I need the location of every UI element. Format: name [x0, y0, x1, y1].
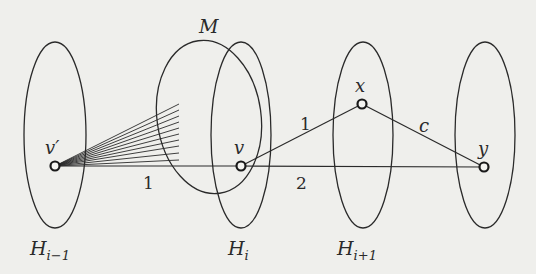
set-label-m: M [198, 15, 219, 37]
vertex-y [480, 163, 489, 172]
edge-label-v-x: 1 [300, 114, 311, 134]
set-h-i-plus-1 [333, 42, 393, 228]
edge-label-v-y: 2 [296, 173, 307, 193]
set-m [147, 34, 271, 201]
set-h-i-plus-2 [455, 42, 515, 228]
set-h-i [211, 42, 271, 228]
edge-label-vprime-v: 1 [143, 173, 154, 193]
vertex-v-prime [51, 162, 60, 171]
vertex-label-v-prime: v′ [45, 137, 59, 158]
set-label-h-i: Hi [227, 237, 249, 263]
vertex-label-x: x [355, 75, 365, 96]
vertex-x [358, 100, 367, 109]
set-label-h-i-minus-1: Hi−1 [29, 237, 70, 263]
fan-edges [55, 104, 179, 166]
vertex-label-v: v [234, 137, 244, 158]
set-h-i-minus-1 [24, 42, 86, 228]
set-label-h-i-plus-1: Hi+1 [336, 237, 377, 263]
vertex-v [237, 162, 246, 171]
graph-diagram: v′ v x y M 1 1 c 2 Hi−1 Hi Hi+1 [0, 0, 536, 274]
edge-v-y [241, 166, 484, 167]
edge-label-x-y: c [419, 115, 429, 136]
vertex-label-y: y [477, 138, 489, 159]
